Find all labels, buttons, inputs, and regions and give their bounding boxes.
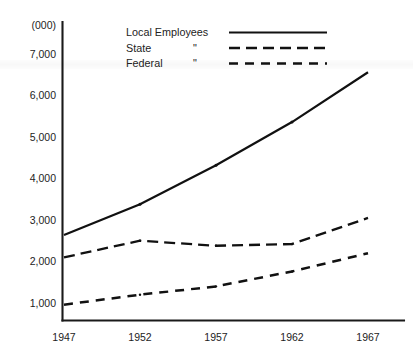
- data-point: [291, 243, 293, 245]
- series-line-federal: [64, 253, 368, 304]
- data-point: [139, 203, 142, 206]
- series-vertex-markers: [139, 121, 294, 296]
- y-tick-label-6000: 6,000: [30, 89, 56, 101]
- legend-ditto-state: ": [193, 42, 197, 54]
- x-tick-label-1947: 1947: [52, 331, 76, 343]
- y-tick-label-5000: 5,000: [30, 131, 56, 143]
- data-point: [215, 285, 217, 287]
- legend-label-state: State: [126, 42, 151, 54]
- x-tick-label-1967: 1967: [356, 331, 380, 343]
- series-group: [64, 72, 368, 304]
- chart-svg: (000) 7,000 6,000 5,000 4,000 3,000 2,00…: [0, 0, 413, 364]
- legend-label-federal: Federal: [126, 57, 163, 69]
- y-tick-label-4000: 4,000: [30, 172, 56, 184]
- y-tick-label-7000: 7,000: [30, 48, 56, 60]
- line-chart: (000) 7,000 6,000 5,000 4,000 3,000 2,00…: [0, 0, 413, 364]
- legend-ditto-federal: ": [193, 57, 197, 69]
- data-point: [215, 245, 217, 247]
- x-tick-label-1962: 1962: [280, 331, 304, 343]
- data-point: [291, 270, 293, 272]
- x-tick-label-1957: 1957: [204, 331, 228, 343]
- data-point: [139, 240, 141, 242]
- chart-legend: Local Employees State " Federal ": [126, 26, 327, 69]
- y-axis-unit-label: (000): [31, 19, 56, 31]
- series-line-state: [64, 218, 368, 257]
- data-point: [139, 294, 141, 296]
- data-point: [215, 164, 218, 167]
- legend-label-local-employees: Local Employees: [126, 26, 209, 38]
- series-line-local-employees: [64, 72, 368, 235]
- y-tick-label-3000: 3,000: [30, 214, 56, 226]
- y-tick-label-2000: 2,000: [30, 255, 56, 267]
- y-tick-label-1000: 1,000: [30, 297, 56, 309]
- data-point: [291, 121, 294, 124]
- x-tick-label-1952: 1952: [128, 331, 152, 343]
